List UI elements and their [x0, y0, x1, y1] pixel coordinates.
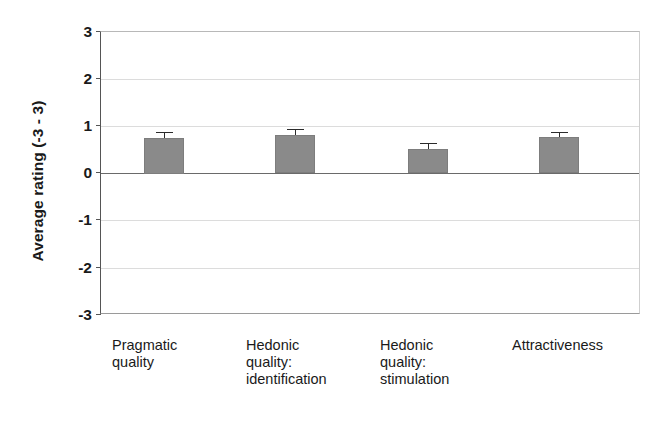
- x-category-line: quality:: [246, 354, 374, 371]
- error-bar-cap-top: [287, 129, 304, 130]
- x-category-line: Pragmatic: [112, 337, 240, 354]
- y-tick-label-neg1: -1: [52, 212, 92, 228]
- y-tick-label-neg3: -3: [52, 307, 92, 323]
- x-category-label-attractiveness: Attractiveness: [512, 337, 640, 354]
- y-tick-label-2: 2: [52, 71, 92, 87]
- x-category-line: Attractiveness: [512, 337, 640, 354]
- x-category-line: identification: [246, 371, 374, 388]
- y-tick-mark-neg3: [96, 314, 101, 315]
- gridline-neg1: [101, 220, 639, 221]
- x-category-label-hedonic-quality-identification: Hedonic quality: identification: [246, 337, 374, 388]
- error-bar-cap-top: [551, 132, 568, 133]
- x-category-line: Hedonic: [246, 337, 374, 354]
- gridline-1: [101, 126, 639, 127]
- plot-area: [100, 31, 640, 314]
- y-tick-label-neg2: -2: [52, 260, 92, 276]
- gridline-neg2: [101, 268, 639, 269]
- x-category-line: quality:: [380, 354, 508, 371]
- x-category-line: stimulation: [380, 371, 508, 388]
- bar-chart: Average rating (-3 - 3) 3 2 1 0 -1 -2 -3: [0, 0, 666, 425]
- bar-attractiveness: [539, 137, 579, 174]
- bar-hedonic-quality-stimulation: [408, 149, 448, 174]
- x-category-label-pragmatic-quality: Pragmatic quality: [112, 337, 240, 371]
- gridline-2: [101, 79, 639, 80]
- y-tick-label-0: 0: [52, 165, 92, 181]
- error-bar-cap-top: [156, 132, 173, 133]
- y-tick-label-3: 3: [52, 24, 92, 40]
- error-bar-cap-top: [420, 143, 437, 144]
- y-tick-label-1: 1: [52, 118, 92, 134]
- bar-hedonic-quality-identification: [275, 135, 315, 174]
- x-category-line: quality: [112, 354, 240, 371]
- x-category-label-hedonic-quality-stimulation: Hedonic quality: stimulation: [380, 337, 508, 388]
- bar-pragmatic-quality: [144, 138, 184, 173]
- x-category-line: Hedonic: [380, 337, 508, 354]
